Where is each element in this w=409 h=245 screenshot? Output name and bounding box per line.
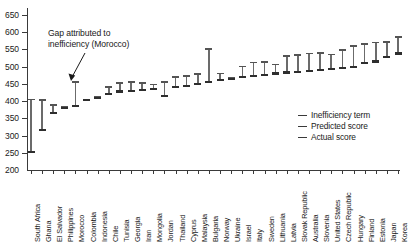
legend-swatch-actual-icon <box>298 137 307 139</box>
x-axis-category-label: Korea <box>401 223 408 242</box>
legend-label: Actual score <box>311 133 356 141</box>
legend: Inefficiency term Predicted score Actual… <box>298 110 370 143</box>
legend-swatch-inefficiency-icon <box>298 115 307 117</box>
legend-label: Predicted score <box>311 122 368 130</box>
legend-item: Inefficiency term <box>298 110 370 121</box>
legend-swatch-predicted-icon <box>298 126 307 128</box>
legend-label: Inefficiency term <box>311 111 370 119</box>
legend-item: Actual score <box>298 132 370 143</box>
legend-item: Predicted score <box>298 121 370 132</box>
